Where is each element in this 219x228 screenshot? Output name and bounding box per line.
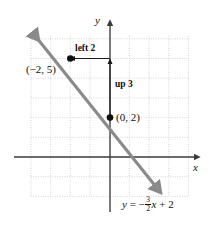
point-neg2-5-label: (−2, 5) [26, 64, 56, 75]
equation-lhs: y [122, 198, 127, 210]
graph-figure [0, 0, 219, 228]
point-0-2-label: (0, 2) [116, 112, 140, 123]
x-axis-label: x [193, 162, 198, 173]
equation-line [38, 39, 160, 191]
equation-intercept: 2 [168, 198, 174, 210]
point-0-2-dot [107, 114, 114, 121]
equation-label: y = −32x + 2 [122, 196, 174, 213]
slope-denominator: 2 [145, 204, 151, 213]
equation-equals: = [130, 198, 136, 210]
slope-fraction: 32 [145, 196, 151, 213]
point-neg2-5-dot [67, 55, 74, 62]
up-3-label: up 3 [115, 80, 133, 90]
equation-variable: x [152, 198, 157, 210]
left-2-label: left 2 [75, 44, 95, 54]
y-axis-label: y [95, 15, 100, 26]
equation-plus: + [159, 198, 165, 210]
slope-numerator: 3 [145, 196, 151, 204]
equation-minus-sign: − [139, 198, 145, 210]
